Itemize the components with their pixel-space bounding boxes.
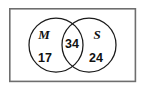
set-label-m: M <box>37 27 50 42</box>
set-count-m-only: 17 <box>38 51 52 65</box>
set-count-s-only: 24 <box>89 51 103 65</box>
set-count-intersection: 34 <box>65 37 79 51</box>
set-label-s: S <box>93 27 100 42</box>
venn-diagram-figure: M 17 S 24 34 <box>0 0 144 89</box>
